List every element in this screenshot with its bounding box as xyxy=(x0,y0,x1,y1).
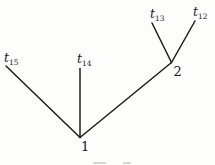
leaf-t14-subscript: 14 xyxy=(82,59,92,68)
node-label-1: 1 xyxy=(81,139,89,154)
leaf-t12-subscript: 12 xyxy=(198,12,208,21)
edge-node1-t15 xyxy=(6,66,80,138)
leaf-t15-subscript: 15 xyxy=(9,58,19,67)
leaf-label-t15: t15 xyxy=(4,50,19,67)
tree-edges xyxy=(6,21,195,138)
edge-node2-t13 xyxy=(152,23,172,63)
edge-node2-t12 xyxy=(172,21,196,63)
tree-figure: t15 t14 t13 t12 1 2 xyxy=(0,0,215,165)
cropped-caption-fragment xyxy=(93,162,106,165)
leaf-label-t13: t13 xyxy=(150,6,165,23)
leaf-label-t14: t14 xyxy=(77,51,92,68)
cropped-caption-fragment xyxy=(123,162,131,164)
tree-diagram: t15 t14 t13 t12 1 2 xyxy=(0,0,215,165)
node-label-2: 2 xyxy=(174,64,182,79)
edge-node1-node2 xyxy=(80,63,172,138)
leaf-t13-subscript: 13 xyxy=(155,14,165,23)
leaf-label-t12: t12 xyxy=(193,4,208,21)
